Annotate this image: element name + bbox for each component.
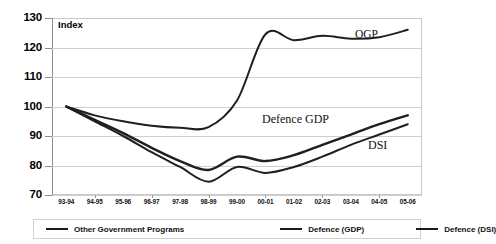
legend-item-other-government-programs: Other Government Programs xyxy=(46,220,184,238)
legend-swatch-icon xyxy=(280,228,302,231)
line-other-government-programs xyxy=(66,30,408,130)
legend-swatch-icon xyxy=(46,228,68,231)
series-annotation-dsi: DSI xyxy=(368,138,387,153)
legend-label: Defence (DSI) xyxy=(444,225,496,234)
legend-label: Defence (GDP) xyxy=(308,225,364,234)
legend-item-defence-dsi: Defence (DSI) xyxy=(416,220,496,238)
line-defence-gdp xyxy=(66,107,408,170)
legend-item-defence-gdp: Defence (GDP) xyxy=(280,220,364,238)
chart-legend: Other Government Programs Defence (GDP) … xyxy=(33,219,421,239)
series-annotation-defence-gdp: Defence GDP xyxy=(262,112,329,127)
series-annotation-ogp: OGP xyxy=(355,28,378,40)
legend-swatch-icon xyxy=(416,228,438,231)
line-defence-dsi xyxy=(66,107,408,182)
legend-label: Other Government Programs xyxy=(74,225,184,234)
